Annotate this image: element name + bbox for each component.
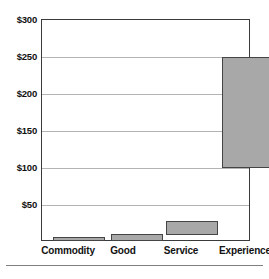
bar-chart-figure: $300 $250 $200 $150 $100 $50 Commodity G…	[0, 0, 269, 279]
x-axis-tick-label-good: Good	[95, 244, 151, 258]
y-axis-tick-label-150: $150	[0, 126, 37, 136]
bar-good	[111, 234, 163, 241]
gridline-100	[42, 168, 249, 169]
gridline-150	[42, 131, 249, 132]
gridline-50	[42, 205, 249, 206]
x-axis-labels: Commodity Good Service Experience	[33, 244, 261, 260]
bar-service	[166, 221, 218, 235]
y-axis-tick-label-100: $100	[0, 163, 37, 173]
x-axis-tick-label-service: Service	[151, 244, 211, 258]
footer-divider	[6, 265, 263, 266]
y-axis-tick-label-50: $50	[0, 200, 37, 210]
gridline-200	[42, 94, 249, 95]
x-axis-tick-label-commodity: Commodity	[33, 244, 103, 258]
bar-experience	[222, 57, 269, 168]
gridline-250	[42, 57, 249, 58]
y-axis-tick-label-300: $300	[0, 15, 37, 25]
x-axis-tick-label-experience: Experience	[207, 244, 269, 258]
bar-commodity	[53, 237, 105, 241]
plot-area	[41, 19, 250, 241]
y-axis-tick-label-200: $200	[0, 89, 37, 99]
y-axis-tick-label-250: $250	[0, 52, 37, 62]
